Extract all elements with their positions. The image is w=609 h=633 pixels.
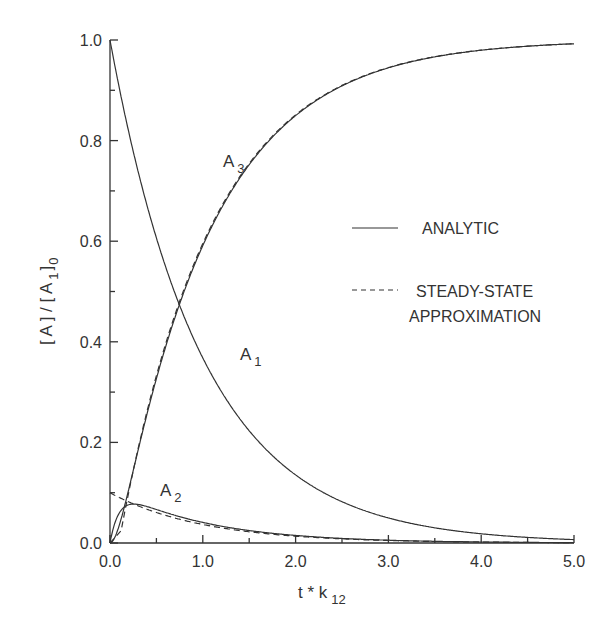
legend-label-approximation: APPROXIMATION — [409, 308, 541, 325]
svg-text:t * k12: t * k12 — [298, 583, 346, 607]
x-tick-label: 3.0 — [377, 553, 399, 570]
label-a3: A3 — [223, 152, 245, 176]
y-tick-label: 0.2 — [80, 434, 102, 451]
chart: 0.00.20.40.60.81.00.01.02.03.04.05.0 A1A… — [0, 0, 609, 633]
curve-annotations: A1A2A3 — [160, 152, 262, 505]
legend-label-steady-state: STEADY-STATE — [416, 283, 533, 300]
curve-a2-analytic — [110, 504, 574, 543]
x-tick-label: 5.0 — [563, 553, 585, 570]
x-axis-label: t * k12 — [298, 583, 346, 607]
svg-text:[ A ] / [ A1]0: [ A ] / [ A1]0 — [37, 257, 61, 345]
x-tick-label: 1.0 — [192, 553, 214, 570]
y-tick-label: 0.0 — [80, 535, 102, 552]
x-tick-label: 4.0 — [470, 553, 492, 570]
label-a1: A1 — [240, 345, 262, 369]
legend-label-analytic: ANALYTIC — [422, 220, 499, 237]
y-axis-label: [ A ] / [ A1]0 — [37, 257, 61, 345]
x-tick-label: 0.0 — [99, 553, 121, 570]
x-tick-label: 2.0 — [284, 553, 306, 570]
legend: ANALYTIC STEADY-STATE APPROXIMATION — [352, 220, 541, 325]
y-tick-label: 0.6 — [80, 233, 102, 250]
y-tick-label: 1.0 — [80, 32, 102, 49]
tick-labels: 0.00.20.40.60.81.00.01.02.03.04.05.0 — [80, 32, 585, 570]
y-tick-label: 0.8 — [80, 133, 102, 150]
label-a2: A2 — [160, 481, 182, 505]
y-tick-label: 0.4 — [80, 334, 102, 351]
